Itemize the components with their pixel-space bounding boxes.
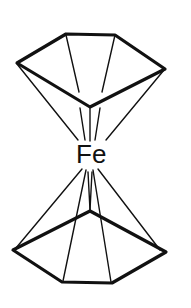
- fe-atom-label: Fe: [76, 139, 106, 169]
- fe-bond-top-back-right: [102, 35, 115, 92]
- ferrocene-diagram: Fe: [0, 0, 191, 308]
- fe-bond-top-left: [17, 64, 78, 140]
- fe-bond-top-back-left: [66, 35, 79, 92]
- fe-bond-top-front-a: [80, 108, 85, 140]
- top-ring-group: [17, 34, 165, 141]
- fe-bond-bottom-right: [98, 169, 160, 250]
- fe-bond-top-right: [106, 70, 164, 140]
- bottom-cyclopentadienyl-ring: [13, 211, 166, 283]
- fe-bond-top-front-c: [95, 108, 100, 140]
- fe-bond-bottom-front-right: [93, 170, 111, 282]
- bottom-ring-group: [13, 169, 166, 283]
- fe-bond-bottom-back-b: [90, 172, 92, 210]
